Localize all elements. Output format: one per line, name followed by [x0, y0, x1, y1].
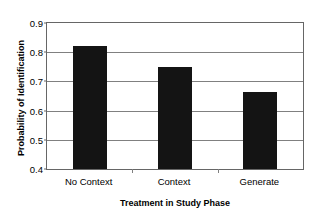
bar — [243, 92, 277, 169]
y-axis-tick-label: 0.8 — [30, 47, 47, 58]
x-axis-tick-label: Generate — [199, 176, 317, 187]
bar — [73, 46, 107, 169]
x-axis-tick-mark — [132, 169, 133, 173]
x-axis-tick-mark — [218, 169, 219, 173]
bar — [158, 67, 192, 169]
y-axis-title: Probability of Identification — [14, 8, 28, 188]
y-axis-tick-label: 0.5 — [30, 134, 47, 145]
x-axis-title: Treatment in Study Phase — [46, 198, 304, 208]
plot-area: 0.40.50.60.70.80.9 — [46, 22, 304, 170]
y-axis-tick-label: 0.7 — [30, 76, 47, 87]
y-axis-tick-label: 0.6 — [30, 105, 47, 116]
y-axis-tick-label: 0.4 — [30, 164, 47, 175]
bar-chart-figure: Probability of Identification 0.40.50.60… — [0, 0, 317, 216]
y-axis-tick-label: 0.9 — [30, 18, 47, 29]
